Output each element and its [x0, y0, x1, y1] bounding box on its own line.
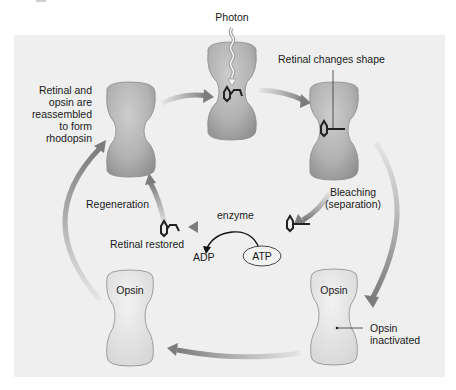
opsin-left-label: Opsin — [110, 284, 150, 296]
reassembled-label: Retinal and opsin are reassembled to for… — [20, 84, 92, 144]
arrow-photon-to-shape — [259, 90, 311, 108]
bleaching-line-1: Bleaching — [312, 186, 394, 198]
rhodopsin-shape-changed — [310, 82, 359, 180]
enzyme-label: enzyme — [217, 209, 254, 221]
reassembled-line-1: Retinal and — [20, 84, 92, 96]
opsin-inactivated-label: Opsin inactivated — [370, 322, 420, 346]
arrow-enzyme — [188, 221, 275, 233]
arrow-opsin-up-to-regeneration — [65, 140, 106, 300]
reassembled-line-3: reassembled — [20, 108, 92, 120]
reassembled-line-2: opsin are — [20, 96, 92, 108]
reassembled-line-5: rhodopsin — [20, 132, 92, 144]
rhodopsin-reassembled — [107, 82, 156, 177]
retinal-restored-label: Retinal restored — [110, 238, 184, 250]
retinal-changes-shape-label: Retinal changes shape — [278, 53, 385, 65]
bleaching-label: Bleaching (separation) — [312, 186, 394, 210]
bleaching-line-2: (separation) — [312, 198, 394, 210]
opsin-inactivated-line-1: Opsin — [370, 322, 420, 334]
regeneration-label: Regeneration — [86, 198, 149, 210]
adp-label: ADP — [193, 251, 215, 263]
arrow-to-bleach — [162, 89, 214, 103]
arrow-opsin-to-opsin — [167, 343, 300, 357]
reassembled-line-4: to form — [20, 120, 92, 132]
retinal-restored-icon — [161, 221, 179, 236]
opsin-inactivated-line-2: inactivated — [370, 334, 420, 346]
arrow-to-opsin-inactivated — [364, 143, 397, 308]
atp-label: ATP — [243, 250, 281, 262]
photon-label: Photon — [212, 11, 252, 23]
opsin-right-label: Opsin — [314, 284, 354, 296]
